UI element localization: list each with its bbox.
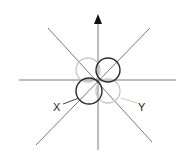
axes <box>19 24 176 150</box>
diagonal-axis-2 <box>36 28 150 145</box>
y-label-leader <box>121 98 137 103</box>
arrowhead-icon <box>94 14 102 24</box>
orbital-diagram: X Y <box>0 0 190 160</box>
y-label: Y <box>138 101 146 113</box>
x-label: X <box>53 101 61 113</box>
